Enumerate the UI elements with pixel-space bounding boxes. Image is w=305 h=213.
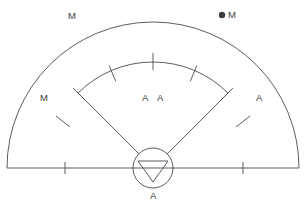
sector-scope-graphic [0,0,305,213]
label-a-right: A [256,93,262,103]
radar-sector-diagram: M M M A A A A [0,0,305,213]
outer-region-tick-right [236,116,250,127]
label-m-left: M [40,93,48,103]
sector-edge-right [167,93,228,154]
inner-arc-tick-pos22 [190,66,197,82]
sector-edge-left [78,93,139,154]
label-m-top-left: M [68,11,76,21]
outer-region-tick-left [56,116,70,127]
point-marker-m-icon [219,12,225,18]
inner-arc-tick-neg22 [109,66,116,82]
label-a-center-right: A [157,93,163,103]
label-a-center-left: A [142,93,148,103]
hub-down-triangle-icon [138,161,168,182]
inner-arc-tick-neg45 [73,88,85,100]
inner-arc-tick-pos45 [221,88,233,100]
label-m-top-right: M [228,10,236,20]
label-a-bottom: A [150,191,156,201]
